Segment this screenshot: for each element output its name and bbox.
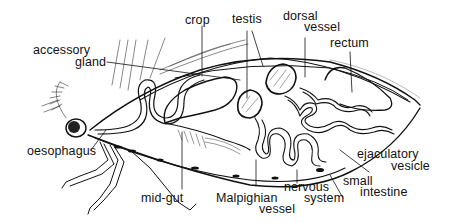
label-accessory-gland-line2: gland <box>75 56 106 68</box>
label-testis: testis <box>232 13 262 25</box>
testis-lower <box>238 90 262 118</box>
label-small-intestine-line2: intestine <box>360 186 407 198</box>
compound-eye <box>68 121 80 133</box>
nerve-cord <box>114 145 324 179</box>
crop-sac <box>164 77 237 123</box>
rectum <box>325 68 392 111</box>
label-crop: crop <box>185 14 210 26</box>
dorsal-outline <box>90 58 420 130</box>
label-oesophagus: oesophagus <box>27 145 96 157</box>
leader-lines <box>91 26 369 198</box>
antenna <box>42 82 68 118</box>
label-malpighian-vessel-line2: vessel <box>259 203 295 215</box>
mid-gut-tube <box>165 123 250 150</box>
label-ejaculatory-vesicle-line2: vesicle <box>391 160 430 172</box>
label-mid-gut: mid-gut <box>141 192 183 204</box>
label-dorsal-vessel-line2: vessel <box>304 21 340 33</box>
label-rectum: rectum <box>330 37 369 49</box>
label-nervous-system-line2: system <box>304 192 344 204</box>
anatomy-diagram: crop testis dorsal vessel rectum accesso… <box>0 0 450 223</box>
